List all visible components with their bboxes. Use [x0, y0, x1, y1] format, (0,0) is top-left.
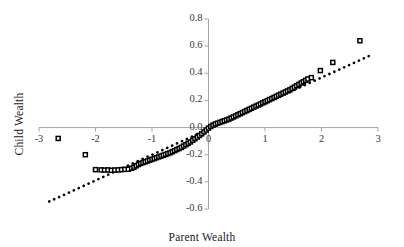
x-tick-label: -1: [132, 133, 172, 144]
data-point-markers: [56, 39, 362, 173]
qq-plot-figure: -0.6-0.4-0.20.00.20.40.60.8 -3-2-10123 P…: [0, 0, 404, 247]
y-tick-label: -0.2: [163, 148, 203, 159]
y-tick-label: 0.8: [163, 12, 203, 23]
x-tick-label: 0: [189, 133, 229, 144]
y-tick-label: -0.6: [163, 202, 203, 213]
x-tick-label: 1: [245, 133, 285, 144]
x-tick-label: -2: [76, 133, 116, 144]
axis-lines: [39, 19, 378, 209]
y-tick-label: 0.2: [163, 93, 203, 104]
y-axis-title: Child Wealth: [13, 64, 25, 184]
x-axis-title: Parent Wealth: [0, 231, 404, 243]
x-tick-label: -3: [19, 133, 59, 144]
y-tick-label: -0.4: [163, 175, 203, 186]
x-tick-label: 3: [358, 133, 398, 144]
x-tick-label: 2: [302, 133, 342, 144]
y-tick-label: 0.0: [163, 121, 203, 132]
y-tick-label: 0.6: [163, 39, 203, 50]
y-tick-label: 0.4: [163, 66, 203, 77]
